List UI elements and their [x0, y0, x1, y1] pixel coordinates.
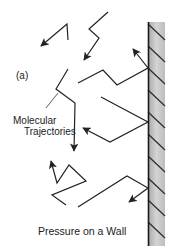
- trajectory-1: [41, 24, 68, 46]
- trajectory-3: [56, 69, 75, 151]
- pressure-on-wall-diagram: (a) Molecular Trajectories Pressure on a…: [0, 0, 174, 250]
- molecular-trajectories: [41, 12, 148, 207]
- figure-caption: Pressure on a Wall: [38, 225, 126, 237]
- trajectory-7: [78, 176, 148, 207]
- trajectory-6: [51, 161, 86, 205]
- wall: [148, 22, 165, 246]
- wall-body: [148, 22, 165, 246]
- panel-label: (a): [16, 70, 28, 81]
- annotation-leader-line: [46, 93, 58, 108]
- trajectory-2: [84, 12, 108, 60]
- annotation-line-2: Trajectories: [24, 126, 76, 137]
- trajectory-5: [83, 97, 148, 142]
- annotation-line-1: Molecular: [13, 115, 57, 126]
